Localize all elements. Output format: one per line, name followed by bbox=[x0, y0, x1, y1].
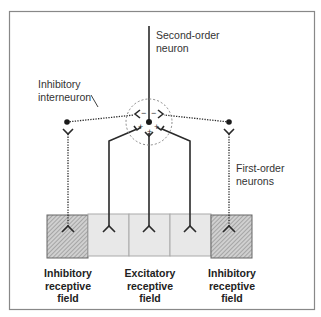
sign-upper-left: − bbox=[141, 107, 146, 120]
inhibitory-field-right bbox=[211, 215, 252, 258]
inhibitory-interneuron-label: Inhibitory interneuron bbox=[38, 78, 91, 103]
inhibitory-field-left bbox=[47, 215, 88, 258]
interneuron-cell-body-right bbox=[226, 119, 232, 125]
second-order-cell-body bbox=[146, 119, 152, 125]
field-label-excitatory: Excitatory receptive field bbox=[110, 267, 190, 305]
interneuron-cell-body-left bbox=[64, 119, 70, 125]
excitatory-axons bbox=[109, 129, 190, 226]
field-label-inhibitory-right: Inhibitory receptive field bbox=[192, 267, 272, 305]
inhibitory-dotted-paths bbox=[67, 95, 229, 226]
second-order-neuron-label: Second-order neuron bbox=[156, 29, 220, 54]
frame-border bbox=[10, 12, 315, 310]
synapse-icon bbox=[63, 129, 73, 134]
synapse-icon bbox=[224, 129, 234, 134]
field-label-inhibitory-left: Inhibitory receptive field bbox=[28, 267, 108, 305]
sign-upper-right: − bbox=[151, 107, 156, 120]
sign-lower-right: + bbox=[154, 121, 159, 134]
sign-lower-center: + bbox=[147, 126, 152, 139]
first-order-neurons-label: First-order neurons bbox=[236, 162, 284, 187]
sign-lower-left: + bbox=[138, 121, 143, 134]
